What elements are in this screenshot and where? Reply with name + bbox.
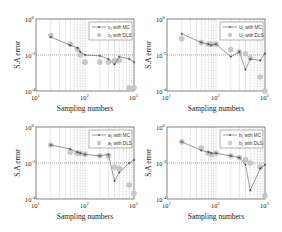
y-axis-label: S.A error — [144, 149, 153, 177]
legend: a₁ with MCa₁ with DLS — [89, 130, 132, 148]
subplot-a1: 10010-210-4101102103Sampling numbersS.A … — [0, 108, 141, 224]
x-tick-label: 102 — [211, 93, 220, 101]
legend-mc-label: b₁ with MC — [239, 133, 262, 138]
subplot-x1: 10010-210-4101102103Sampling numbersS.A … — [0, 0, 141, 116]
x-tick-label: 101 — [31, 201, 40, 209]
x-tick-label: 101 — [162, 201, 171, 209]
y-axis-label: S.A error — [13, 149, 22, 177]
y-tick-label: 100 — [156, 123, 166, 131]
legend: U₁ with MCU₁ with DLS — [220, 22, 264, 40]
x-tick-label: 103 — [260, 93, 270, 101]
x-tick-label: 102 — [80, 93, 89, 101]
legend-dls-label: x₁ with DLS — [108, 33, 132, 38]
x-tick-label: 101 — [162, 93, 171, 101]
x-axis-label: Sampling numbers — [188, 212, 245, 221]
subplot-b1: 10010-210-4101102103Sampling numbersS.A … — [131, 108, 272, 224]
x-tick-label: 103 — [260, 201, 270, 209]
legend-dls-label: U₁ with DLS — [239, 33, 264, 38]
x-tick-label: 102 — [211, 201, 220, 209]
legend: x₁ with MCx₁ with DLS — [89, 22, 132, 40]
legend-mc-label: a₁ with MC — [108, 133, 131, 138]
x-tick-label: 102 — [80, 201, 89, 209]
legend-mc-label: U₁ with MC — [239, 25, 262, 30]
x-tick-label: 101 — [31, 93, 40, 101]
y-axis-label: S.A error — [144, 41, 153, 69]
y-tick-label: 10-2 — [156, 51, 166, 59]
subplot-u1: 10010-210-4101102103Sampling numbersS.A … — [131, 0, 272, 116]
y-tick-label: 100 — [25, 123, 35, 131]
y-axis-label: S.A error — [13, 41, 22, 69]
legend-dls-label: a₁ with DLS — [108, 141, 132, 146]
y-tick-label: 10-2 — [25, 51, 35, 59]
y-tick-label: 10-2 — [25, 159, 35, 167]
legend: b₁ with MCb₁ with DLS — [220, 130, 263, 148]
legend-dls-label: b₁ with DLS — [239, 141, 263, 146]
legend-mc-label: x₁ with MC — [108, 25, 130, 30]
y-tick-label: 100 — [156, 15, 166, 23]
y-tick-label: 100 — [25, 15, 35, 23]
y-tick-label: 10-2 — [156, 159, 166, 167]
x-axis-label: Sampling numbers — [57, 212, 114, 221]
